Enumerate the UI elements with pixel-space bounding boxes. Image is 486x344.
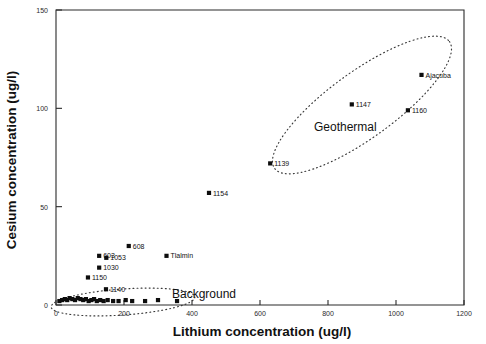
data-marker — [350, 102, 354, 106]
data-marker — [111, 299, 115, 303]
data-point-label: 1030 — [103, 264, 119, 271]
data-point-label: Tlalmin — [171, 252, 194, 259]
x-tick-label: 400 — [186, 310, 198, 317]
data-marker — [164, 254, 168, 258]
data-point-label: 1140 — [110, 286, 125, 293]
data-point-label: 1139 — [274, 160, 289, 167]
data-marker — [116, 299, 120, 303]
y-tick-label: 50 — [40, 204, 48, 211]
data-point-label: 1150 — [92, 274, 107, 281]
data-point-labels: Ajacuba1147116011391154Tlalmin6086031053… — [92, 72, 451, 293]
x-axis-tick-labels: 020040060080010001200 — [54, 310, 472, 317]
plot-canvas: 020040060080010001200 050100150 Ajacuba1… — [0, 0, 486, 344]
data-marker — [97, 254, 101, 258]
x-tick-label: 1000 — [388, 310, 404, 317]
data-marker — [106, 298, 110, 302]
data-marker — [130, 299, 134, 303]
geothermal-group-label: Geothermal — [314, 120, 377, 134]
y-tick-label: 150 — [36, 7, 48, 14]
data-marker — [207, 191, 211, 195]
y-axis-title: Cesium concentration (ug/l) — [4, 71, 19, 250]
data-marker — [127, 244, 131, 248]
data-point-label: 1154 — [213, 190, 228, 197]
y-tick-label: 100 — [36, 105, 48, 112]
y-axis-tick-labels: 050100150 — [36, 7, 48, 309]
data-marker — [124, 298, 128, 302]
data-marker — [102, 299, 106, 303]
x-axis-title: Lithium concentration (ug/l) — [173, 324, 352, 339]
data-point-label: 1147 — [356, 101, 371, 108]
data-marker — [406, 108, 410, 112]
x-tick-label: 1200 — [456, 310, 472, 317]
data-point-label: 1053 — [110, 254, 126, 261]
data-marker — [156, 298, 160, 302]
data-point-label: 1160 — [412, 107, 427, 114]
x-tick-label: 200 — [118, 310, 130, 317]
background-group-label: Background — [172, 287, 236, 301]
data-point-label: Ajacuba — [426, 72, 451, 80]
data-marker — [86, 275, 90, 279]
data-marker — [143, 299, 147, 303]
data-marker — [97, 266, 101, 270]
y-tick-label: 0 — [44, 302, 48, 309]
x-tick-label: 800 — [322, 310, 334, 317]
data-point-label: 608 — [133, 243, 145, 250]
data-marker — [419, 73, 423, 77]
data-marker — [104, 287, 108, 291]
data-marker — [268, 161, 272, 165]
x-tick-label: 600 — [254, 310, 266, 317]
scatter-chart: 020040060080010001200 050100150 Ajacuba1… — [0, 0, 486, 344]
y-axis-ticks — [56, 10, 62, 305]
